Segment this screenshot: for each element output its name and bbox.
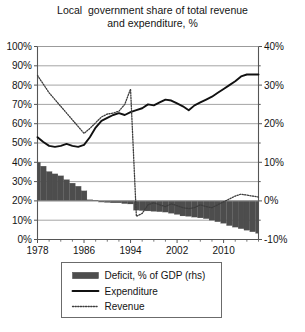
left-axis: 0%10%20%30%40%50%60%70%80%90%100% xyxy=(6,41,37,245)
deficit-bar xyxy=(232,201,238,227)
deficit-bar xyxy=(145,201,151,211)
deficit-bar xyxy=(46,172,52,201)
deficit-bar xyxy=(221,201,227,223)
deficit-bar xyxy=(192,201,198,217)
chart-legend: Deficit, % of GDP (rhs)ExpenditureRevenu… xyxy=(62,263,222,318)
deficit-bar xyxy=(151,201,157,211)
left-axis-tick-label: 10% xyxy=(12,215,32,226)
deficit-bar xyxy=(139,201,145,211)
left-axis-tick-label: 20% xyxy=(12,195,32,206)
deficit-bar xyxy=(209,201,215,220)
deficit-bar xyxy=(52,174,58,201)
deficit-bar xyxy=(227,201,233,226)
left-axis-tick-label: 0% xyxy=(18,234,33,245)
right-axis-tick-label: 0% xyxy=(264,195,279,206)
x-axis-tick-label: 1978 xyxy=(26,245,49,256)
legend-item-label: Revenue xyxy=(105,301,145,312)
right-axis-tick-label: 30% xyxy=(264,80,284,91)
deficit-bar xyxy=(69,183,75,201)
deficit-bar xyxy=(157,201,163,212)
left-axis-tick-label: 40% xyxy=(12,157,32,168)
right-axis: -10%0%10%20%30%40% xyxy=(259,41,288,245)
deficit-bar xyxy=(250,201,256,232)
right-axis-tick-label: 10% xyxy=(264,157,284,168)
right-axis-tick-label: 40% xyxy=(264,41,284,52)
deficit-bar xyxy=(75,186,81,201)
x-axis-tick-label: 1986 xyxy=(73,245,96,256)
left-axis-tick-label: 30% xyxy=(12,176,32,187)
deficit-bars-series xyxy=(38,162,259,233)
left-axis-tick-label: 70% xyxy=(12,99,32,110)
deficit-bar xyxy=(174,201,180,215)
right-axis-tick-label: 20% xyxy=(264,118,284,129)
legend-swatch-deficit xyxy=(73,272,99,278)
x-axis-tick-label: 1994 xyxy=(119,245,142,256)
deficit-bar xyxy=(58,176,64,201)
deficit-bar xyxy=(203,201,209,219)
deficit-bar xyxy=(38,162,41,201)
legend-item-label: Deficit, % of GDP (rhs) xyxy=(105,270,206,281)
x-axis-tick-label: 2002 xyxy=(166,245,189,256)
deficit-bar xyxy=(81,191,87,201)
left-axis-tick-label: 90% xyxy=(12,60,32,71)
chart-figure: Local government share of total revenue … xyxy=(0,0,305,332)
left-axis-tick-label: 80% xyxy=(12,80,32,91)
deficit-bar xyxy=(40,166,46,201)
right-axis-tick-label: -10% xyxy=(264,234,287,245)
left-axis-tick-label: 100% xyxy=(6,41,32,52)
x-axis: 19781986199420022010 xyxy=(26,240,258,256)
deficit-bar xyxy=(64,180,70,201)
deficit-bar xyxy=(244,201,250,230)
legend-item-label: Expenditure xyxy=(105,286,159,297)
deficit-bar xyxy=(168,201,174,213)
left-axis-tick-label: 50% xyxy=(12,137,32,148)
left-axis-tick-label: 60% xyxy=(12,118,32,129)
deficit-bar xyxy=(256,201,259,233)
x-axis-tick-label: 2010 xyxy=(212,245,235,256)
deficit-bar xyxy=(197,201,203,218)
chart-plot: 0%10%20%30%40%50%60%70%80%90%100% -10%0%… xyxy=(0,0,305,332)
deficit-bar xyxy=(238,201,244,229)
deficit-bar xyxy=(128,201,134,204)
